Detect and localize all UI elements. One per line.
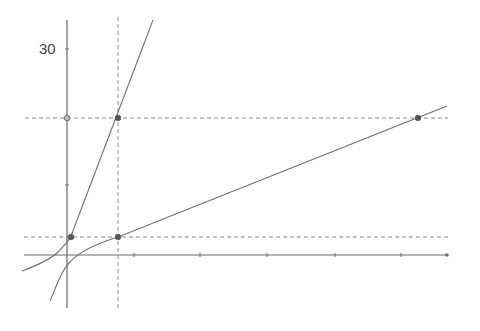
dashed-guide-lines bbox=[24, 17, 448, 308]
point-steep-upper bbox=[115, 115, 121, 121]
point-shallow-lower bbox=[115, 234, 121, 240]
point-steep-lower bbox=[68, 234, 74, 240]
y-axis-tick-label-30: 30 bbox=[39, 40, 56, 57]
graph-canvas bbox=[0, 0, 480, 331]
curve-steep-curve bbox=[22, 20, 153, 271]
point-shallow-right bbox=[415, 115, 421, 121]
coordinate-axes bbox=[24, 20, 449, 308]
point-y-axis-open bbox=[64, 115, 70, 121]
function-curves bbox=[22, 20, 447, 301]
x-axis-end-marker bbox=[445, 253, 449, 257]
